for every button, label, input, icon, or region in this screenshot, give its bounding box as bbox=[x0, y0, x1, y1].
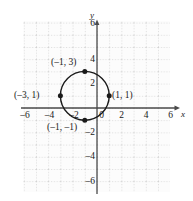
point-label-top: (–1, 3) bbox=[51, 58, 76, 68]
point-label-right: (1, 1) bbox=[112, 91, 133, 101]
data-point-left bbox=[58, 93, 63, 98]
x-tick-label-zero: 0 bbox=[99, 111, 104, 121]
data-point-bottom bbox=[82, 118, 87, 123]
data-point-top bbox=[82, 69, 87, 74]
y-tick-label-neg2: –2 bbox=[86, 128, 96, 138]
x-tick-label-pos2: 2 bbox=[119, 111, 124, 121]
point-label-left: (–3, 1) bbox=[14, 91, 39, 101]
point-label-bottom: (–1, –1) bbox=[47, 123, 77, 133]
graph-canvas bbox=[0, 0, 193, 201]
x-tick-label-pos6: 6 bbox=[168, 111, 173, 121]
coordinate-plane-figure: –6 –4 –2 0 2 4 6 6 4 2 –2 –4 –6 x y (–1,… bbox=[0, 0, 193, 201]
y-tick-label-pos6: 6 bbox=[90, 19, 95, 29]
data-point-right bbox=[107, 93, 112, 98]
y-tick-label-pos4: 4 bbox=[90, 55, 95, 65]
x-tick-label-neg6: –6 bbox=[20, 111, 30, 121]
x-tick-label-neg4: –4 bbox=[45, 111, 55, 121]
y-tick-label-pos2: 2 bbox=[90, 80, 95, 90]
x-axis-label: x bbox=[181, 110, 185, 119]
y-axis-label: y bbox=[90, 11, 94, 20]
y-tick-label-neg6: –6 bbox=[86, 177, 96, 187]
y-tick-label-neg4: –4 bbox=[86, 153, 96, 163]
x-tick-label-neg2: –2 bbox=[69, 111, 79, 121]
x-tick-label-pos4: 4 bbox=[144, 111, 149, 121]
